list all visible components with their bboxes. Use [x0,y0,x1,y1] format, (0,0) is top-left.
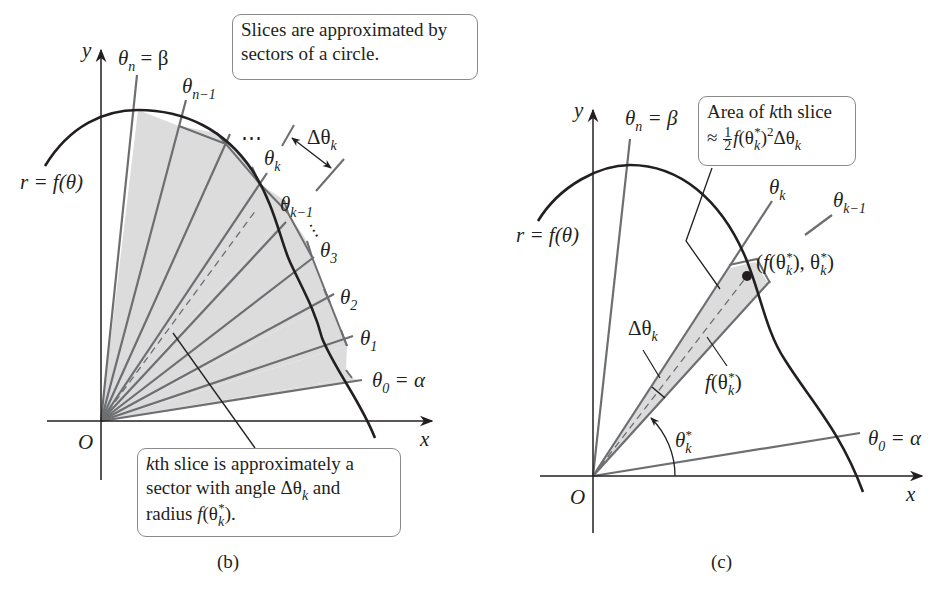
panel-b-label-theta-3: θ3 [320,240,337,261]
panel-c-label-theta-k: θk [769,177,786,198]
panel-b-label-delta-theta: Δθk [307,127,337,148]
ray-theta-0 [593,433,860,476]
panel-b-x-label: x [420,429,429,450]
callout-bottom-line-3: radius f(θk*). [146,502,392,528]
panel-c-label-angle: θk* [675,430,692,451]
panel-b-ellipsis-top: ⋯ [241,128,262,149]
panel-c-origin-label: O [570,487,585,508]
panel-b-curve-label: r = f(θ) [20,172,83,193]
panel-b-callout-bottom: kth slice is approximately a sector with… [137,448,401,537]
panel-b [45,50,432,480]
panel-b-label-theta-n-minus-1: θn−1 [182,76,216,97]
panel-b-label-theta-k: θk [264,148,281,169]
panel-c-radius-leader [707,337,727,366]
fraction-one-half: 12 [723,127,732,152]
panel-c-x-label: x [906,484,915,505]
panel-b-label-theta-0: θ0 = α [372,370,425,391]
panel-b-label-theta-1: θ1 [360,328,377,349]
callout-bottom-line-2: sector with angle Δθk and [146,476,392,502]
callout-c-line-2: ≈ 12f(θk*)2Δθk [707,126,847,152]
panel-b-label-theta-2: θ2 [340,287,357,308]
panel-c-angle-arc [651,418,675,476]
panel-c-point-label: (f(θk*), θk*) [756,252,834,273]
panel-b-origin-label: O [78,432,93,453]
panel-c-label-radius: f(θk*) [705,372,742,393]
panel-b-label-theta-k-minus-1: θk−1 [280,194,313,215]
callout-top-line-2: sectors of a circle. [241,42,469,66]
panel-b-delta-tick-1 [282,125,294,146]
panel-c-y-label: y [574,100,583,121]
callout-bottom-line-1: kth slice is approximately a [146,452,392,476]
panel-b-label-theta-n: θn = β [118,48,168,69]
panel-c-label-theta-k-minus-1: θk−1 [833,190,866,211]
panel-b-shaded-sectors [101,110,358,421]
panel-c-label-delta-theta: Δθk [628,318,658,339]
callout-top-line-1: Slices are approximated by [241,18,469,42]
panel-c-label-theta-n: θn = β [625,108,677,129]
panel-c-callout: Area of kth slice ≈ 12f(θk*)2Δθk [698,96,856,166]
callout-c-line-1: Area of kth slice [707,100,847,124]
ray-theta-k-minus-1-outer [805,215,832,235]
ray-theta-n [593,139,630,476]
panel-c-point [742,271,752,281]
panel-b-caption: (b) [217,551,239,573]
panel-c-label-theta-0: θ0 = α [868,428,921,449]
panel-c-caption: (c) [711,551,732,573]
panel-c-curve-label: r = f(θ) [516,225,579,246]
panel-c [538,110,922,533]
panel-b-delta-tick-2 [316,159,344,191]
panel-b-y-label: y [82,40,91,61]
panel-b-callout-top: Slices are approximated by sectors of a … [232,14,478,80]
panel-c-delta-leader [643,350,660,378]
